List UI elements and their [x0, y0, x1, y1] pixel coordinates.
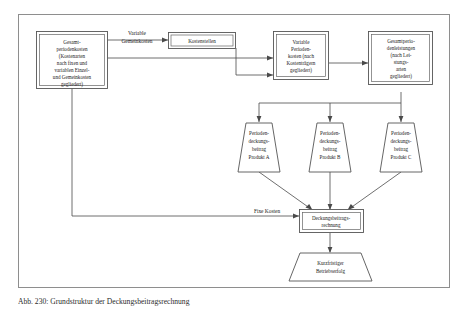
- node-db-produkt-a-line-1: deckungs-: [249, 138, 270, 144]
- node-deckungsbeitragsrechnung-line-0: Deckungsbeitrags-: [312, 215, 350, 221]
- node-db-produkt-a-line-2: beitrag: [252, 146, 267, 152]
- node-gesamtperiodenleistungen[interactable]: Gesamtperio- denleistungen (nach Lei- st…: [369, 32, 433, 85]
- node-db-produkt-b-line-1: deckungs-: [320, 138, 341, 144]
- node-gesamtperiodenleistungen-line-5: gegliedert): [390, 73, 412, 80]
- node-kurzfristiger-betriebserfolg-line-0: Kurzfristiger: [317, 260, 344, 266]
- node-gesamtperiodenkosten-line-6: gegliedert): [61, 81, 83, 88]
- node-gesamtperiodenleistungen-line-3: stungs-: [394, 59, 409, 65]
- node-deckungsbeitragsrechnung-line-1: rechnung: [322, 222, 341, 228]
- node-kostenstellen[interactable]: Kostenstellen: [169, 33, 236, 49]
- node-gesamtperiodenleistungen-line-1: denleistungen: [387, 45, 416, 51]
- node-variable-periodenkosten-line-3: Kostenträgern: [287, 60, 316, 66]
- edge-label-variable-gemeinkosten-line-1: Gemeinkosten: [121, 38, 152, 44]
- node-deckungsbeitragsrechnung[interactable]: Deckungsbeitrags- rechnung: [300, 210, 364, 233]
- node-variable-periodenkosten-line-4: gegliedert): [290, 67, 312, 74]
- node-db-produkt-a-line-0: Perioden-: [249, 130, 269, 136]
- node-db-produkt-a-line-3: Produkt A: [249, 154, 270, 160]
- node-db-produkt-b-line-3: Produkt B: [320, 154, 341, 160]
- flow-diagram: Gesamt- periodenkosten (Kostenarten nach…: [0, 0, 468, 309]
- node-gesamtperiodenkosten[interactable]: Gesamt- periodenkosten (Kostenarten nach…: [37, 32, 108, 89]
- node-variable-periodenkosten-line-1: Perioden-: [291, 46, 311, 52]
- edge-label-variable-gemeinkosten-line-0: Variable: [128, 30, 147, 36]
- node-gesamtperiodenleistungen-line-4: arten: [396, 66, 407, 72]
- node-gesamtperiodenkosten-line-5: und Gemeinkosten: [53, 74, 92, 80]
- node-gesamtperiodenkosten-line-0: Gesamt-: [63, 39, 81, 45]
- node-db-produkt-c-line-2: beitrag: [394, 146, 409, 152]
- figure-root: Gesamt- periodenkosten (Kostenarten nach…: [0, 0, 468, 309]
- node-kurzfristiger-betriebserfolg[interactable]: Kurzfristiger Betriebserfolg: [289, 253, 372, 281]
- node-gesamtperiodenkosten-line-1: periodenkosten: [56, 46, 88, 52]
- node-kurzfristiger-betriebserfolg-line-1: Betriebserfolg: [316, 268, 346, 274]
- node-gesamtperiodenleistungen-line-0: Gesamtperio-: [387, 38, 415, 44]
- node-gesamtperiodenleistungen-line-2: (nach Lei-: [390, 52, 411, 59]
- node-variable-periodenkosten-line-2: kosten (nach: [288, 53, 314, 60]
- edge-label-fixe-kosten: Fixe Kosten: [254, 208, 281, 214]
- node-db-produkt-c-line-3: Produkt C: [391, 154, 412, 160]
- edge-label-fixe-kosten-line-0: Fixe Kosten: [254, 208, 281, 214]
- node-variable-periodenkosten-line-0: Variable: [293, 39, 311, 45]
- node-db-produkt-c-line-1: deckungs-: [391, 138, 412, 144]
- node-db-produkt-c-line-0: Perioden-: [391, 130, 411, 136]
- node-db-produkt-b-line-0: Perioden-: [320, 130, 340, 136]
- figure-caption: Abb. 230: Grundstruktur der Deckungsbeit…: [18, 297, 448, 306]
- node-db-produkt-b-line-2: beitrag: [323, 146, 338, 152]
- node-kostenstellen-label: Kostenstellen: [188, 38, 216, 44]
- node-gesamtperiodenkosten-line-3: nach fixen und: [57, 60, 88, 66]
- node-gesamtperiodenkosten-line-4: variablen Einzel-: [55, 67, 90, 73]
- node-variable-periodenkosten[interactable]: Variable Perioden- kosten (nach Kostentr…: [274, 32, 329, 80]
- node-gesamtperiodenkosten-line-2: (Kostenarten: [59, 53, 86, 60]
